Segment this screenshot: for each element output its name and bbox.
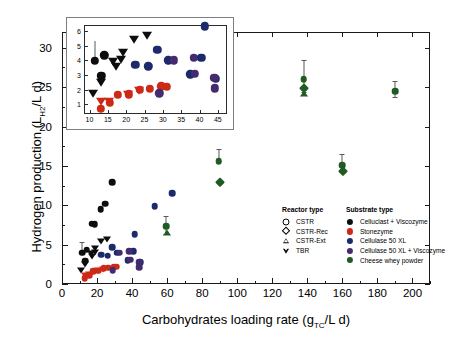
inset-x-tick-label: 20: [122, 116, 130, 123]
inset-x-tick-label: 35: [177, 116, 185, 123]
inset-y-tick-label: 3: [71, 72, 81, 79]
legend-column-substrate: Substrate type Celluclast + ViscozymeSto…: [346, 206, 445, 265]
legend-column-reactor: Reactor type CSTRCSTR-RecCSTR-ExtTBR: [282, 206, 328, 265]
triangle-down-open-icon: [282, 247, 290, 255]
y-tick-label: 25: [0, 81, 52, 93]
inset-y-tick-label: 5: [71, 42, 81, 49]
legend-label: Stonezyme: [360, 228, 393, 235]
legend-items-substrate: Celluclast + ViscozymeStonezymeCellulase…: [346, 217, 445, 265]
inset-x-tick: [163, 110, 164, 114]
x-tick-label: 80: [196, 287, 209, 299]
inset-data-point: [88, 90, 98, 98]
diamond-open-icon: [282, 227, 290, 235]
legend-label: TBR: [296, 247, 309, 254]
x-tick-label: 0: [59, 287, 65, 299]
x-tick-label: 40: [126, 287, 139, 299]
inset-y-tick: [84, 46, 88, 47]
filled-circle-icon: [346, 218, 354, 226]
filled-circle-icon: [346, 237, 354, 245]
legend-items-reactor: CSTRCSTR-RecCSTR-ExtTBR: [282, 217, 328, 255]
legend-item-substrate-cellulase-50-xl-viscozyme[interactable]: Cellulase 50 XL + Viscozyme: [346, 246, 445, 256]
legend-item-substrate-cellulase-50-xl[interactable]: Cellulase 50 XL: [346, 236, 445, 246]
inset-x-tick: [145, 110, 146, 114]
inset-x-tick: [90, 110, 91, 114]
inset-y-tick: [84, 104, 88, 105]
legend-title-reactor: Reactor type: [282, 206, 328, 213]
inset-y-tick-label: 1: [71, 101, 81, 108]
triangle-up-open-icon: [282, 237, 290, 245]
inset-data-point: [104, 97, 114, 105]
inset-data-point: [123, 90, 133, 98]
inset-data-point: [96, 78, 106, 86]
legend-title-substrate: Substrate type: [346, 206, 445, 213]
inset-x-tick: [181, 110, 182, 114]
inset-x-tick: [108, 110, 109, 114]
circle-open-icon: [282, 218, 290, 226]
x-tick-label: 140: [298, 287, 317, 299]
inset-y-tick: [84, 75, 88, 76]
inset-x-tick: [218, 110, 219, 114]
y-tick-label: 30: [0, 42, 52, 54]
x-tick-label: 160: [333, 287, 352, 299]
inset-x-tick: [200, 110, 201, 114]
legend-item-substrate-cheese-whey-powder[interactable]: Cheese whey powder: [346, 255, 445, 265]
legend-label: Cellulase 50 XL + Viscozyme: [360, 247, 445, 254]
legend-label: CSTR: [296, 218, 314, 225]
legend-item-substrate-stonezyme[interactable]: Stonezyme: [346, 227, 445, 237]
filled-circle-icon: [346, 247, 354, 255]
legend-item-reactor-cstr-rec[interactable]: CSTR-Rec: [282, 227, 328, 237]
legend-label: Cellulase 50 XL: [360, 237, 406, 244]
x-tick-label: 200: [403, 287, 422, 299]
inset-data-point: [118, 49, 128, 57]
legend-item-reactor-tbr[interactable]: TBR: [282, 246, 328, 256]
inset-x-tick: [126, 110, 127, 114]
inset-data-point: [134, 87, 144, 95]
y-tick-label: 10: [0, 199, 52, 211]
x-tick-label: 120: [263, 287, 282, 299]
inset-data-point: [108, 58, 118, 66]
x-tick-label: 100: [228, 287, 247, 299]
inset-y-tick-label: 2: [71, 86, 81, 93]
inset-x-tick-label: 30: [159, 116, 167, 123]
y-tick-label: 5: [0, 239, 52, 251]
filled-circle-icon: [346, 227, 354, 235]
y-tick-label: 0: [0, 278, 52, 290]
legend-item-substrate-celluclast-viscozyme[interactable]: Celluclast + Viscozyme: [346, 217, 445, 227]
legend-label: CSTR-Ext: [296, 237, 326, 244]
filled-circle-icon: [346, 256, 354, 264]
inset-x-tick-label: 25: [141, 116, 149, 123]
y-tick-label: 20: [0, 121, 52, 133]
inset-data-point: [129, 36, 139, 44]
inset-y-tick: [84, 31, 88, 32]
legend-label: CSTR-Rec: [296, 228, 328, 235]
inset-y-tick-label: 6: [71, 27, 81, 34]
inset-x-tick-label: 40: [196, 116, 204, 123]
legend-label: Cheese whey powder: [360, 257, 423, 264]
legend-label: Celluclast + Viscozyme: [360, 218, 428, 225]
legend: Reactor type CSTRCSTR-RecCSTR-ExtTBR Sub…: [282, 206, 445, 265]
legend-item-reactor-cstr-ext[interactable]: CSTR-Ext: [282, 236, 328, 246]
figure-canvas: Hydrogen production (LH2/L d) Carbohydra…: [0, 0, 455, 344]
legend-item-reactor-cstr[interactable]: CSTR: [282, 217, 328, 227]
inset-data-point: [142, 31, 152, 39]
inset-y-tick-label: 4: [71, 57, 81, 64]
x-tick-label: 180: [368, 287, 387, 299]
inset-y-tick: [84, 60, 88, 61]
inset-x-tick-label: 15: [104, 116, 112, 123]
y-tick-label: 15: [0, 160, 52, 172]
inset-x-tick-label: 10: [86, 116, 94, 123]
inset-x-tick-label: 45: [214, 116, 222, 123]
x-tick-label: 20: [91, 287, 104, 299]
x-tick-label: 60: [161, 287, 174, 299]
